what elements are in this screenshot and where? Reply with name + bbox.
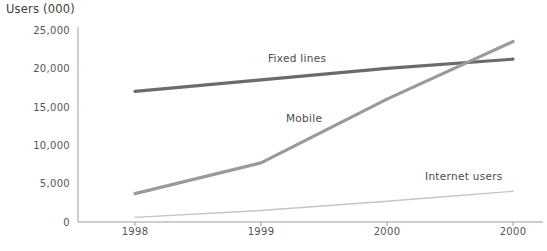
series-label-mobile: Mobile (286, 112, 322, 124)
plot-area (0, 0, 547, 251)
line-chart: Users (000) 0 5,000 10,000 15,000 20,000… (0, 0, 547, 251)
x-tick-label: 1998 (122, 226, 149, 237)
data-series-layer (135, 42, 513, 218)
series-line-internet-users (135, 191, 513, 217)
x-tick-label: 2000 (500, 226, 527, 237)
x-tick-label: 2000 (374, 226, 401, 237)
series-label-internet-users: Internet users (425, 170, 503, 182)
x-axis-tick-marks (135, 222, 513, 226)
series-line-fixed-lines (135, 59, 513, 91)
series-label-fixed-lines: Fixed lines (268, 52, 326, 64)
x-tick-label: 1999 (248, 226, 275, 237)
